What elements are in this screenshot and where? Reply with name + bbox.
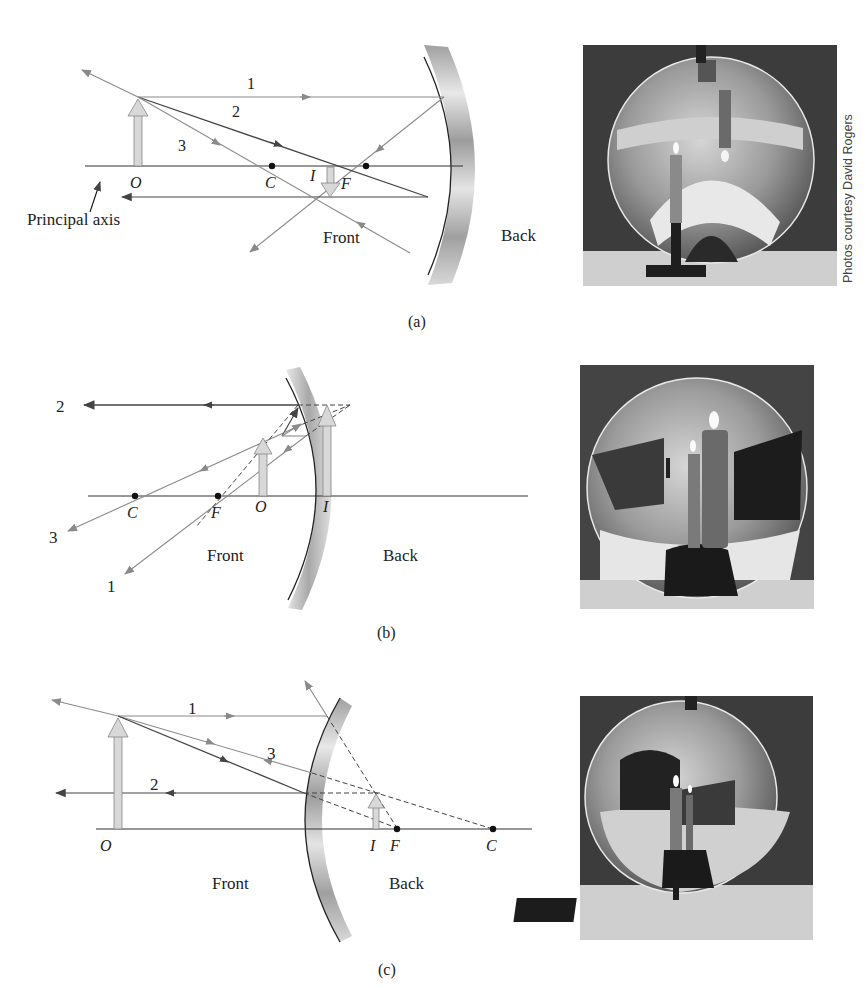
image-label: I bbox=[369, 837, 376, 854]
ray-2-label: 2 bbox=[232, 103, 240, 120]
center-label: C bbox=[127, 504, 138, 521]
focal-label: F bbox=[389, 837, 400, 854]
principal-axis-label: Principal axis bbox=[27, 210, 120, 229]
figure-canvas: 1 2 3 O C I F Principal axis Front Back … bbox=[0, 0, 868, 988]
ray-3-label: 3 bbox=[267, 744, 276, 763]
panel-a-diagram: 1 2 3 O C I F Principal axis Front Back … bbox=[27, 45, 536, 331]
image-label: I bbox=[309, 167, 316, 184]
focal-label: F bbox=[210, 504, 221, 521]
focal-point bbox=[363, 163, 369, 169]
center-point bbox=[490, 826, 496, 832]
convex-mirror bbox=[305, 698, 352, 942]
panel-c-diagram: 1 3 2 O I F C Front Back (c) bbox=[52, 681, 532, 979]
photo-b bbox=[580, 365, 814, 609]
center-label: C bbox=[486, 837, 497, 854]
center-label: C bbox=[265, 174, 276, 191]
image-label: I bbox=[322, 498, 329, 515]
center-point bbox=[269, 163, 275, 169]
front-label: Front bbox=[212, 874, 249, 893]
object-label: O bbox=[100, 837, 112, 854]
ray-1-label: 1 bbox=[188, 699, 197, 718]
caption-b: (b) bbox=[377, 624, 396, 642]
focal-point bbox=[215, 493, 221, 499]
front-label: Front bbox=[207, 546, 244, 565]
photo-a bbox=[583, 45, 837, 286]
focal-label: F bbox=[340, 175, 351, 192]
panel-b-diagram: 2 3 1 C F O I Front Back (b) bbox=[49, 367, 528, 642]
ray-2-label: 2 bbox=[56, 397, 65, 416]
object-arrow bbox=[254, 438, 272, 496]
object-label: O bbox=[130, 174, 142, 191]
photo-credit: Photos courtesy David Rogers bbox=[841, 114, 855, 283]
caption-a: (a) bbox=[408, 313, 426, 331]
back-label: Back bbox=[389, 874, 424, 893]
ray-3-label: 3 bbox=[178, 137, 186, 154]
concave-mirror bbox=[424, 45, 475, 285]
ray-1-label: 1 bbox=[107, 577, 116, 596]
back-label: Back bbox=[501, 226, 536, 245]
front-label: Front bbox=[323, 228, 360, 247]
object-label: O bbox=[255, 498, 267, 515]
object-arrow bbox=[128, 99, 148, 166]
center-point bbox=[132, 493, 138, 499]
photo-c bbox=[513, 696, 813, 940]
ray-1-label: 1 bbox=[247, 75, 255, 92]
focal-point bbox=[394, 826, 400, 832]
ray-2-label: 2 bbox=[150, 775, 159, 794]
caption-c: (c) bbox=[378, 961, 396, 979]
ray-3-label: 3 bbox=[49, 528, 58, 547]
object-arrow bbox=[108, 718, 128, 829]
back-label: Back bbox=[383, 546, 418, 565]
image-arrow bbox=[368, 794, 384, 829]
